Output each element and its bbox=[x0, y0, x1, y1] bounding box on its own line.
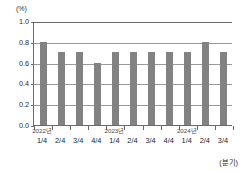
y-axis-tick-label: 0.4 bbox=[19, 81, 29, 88]
y-axis-tick-label: 0.2 bbox=[19, 102, 29, 109]
x-axis-category-labels: 1/42/43/44/41/42/43/44/41/42/43/4 bbox=[33, 137, 232, 147]
bar bbox=[202, 42, 209, 125]
x-axis-category-label: 1/4 bbox=[105, 137, 123, 145]
x-axis-category-label: 3/4 bbox=[69, 137, 87, 145]
bar-slot bbox=[179, 22, 197, 125]
x-axis-category-label: 2/4 bbox=[196, 137, 214, 145]
bar bbox=[94, 63, 101, 125]
year-label: 2022년 bbox=[32, 127, 52, 134]
bar-slot bbox=[161, 22, 179, 125]
bar bbox=[220, 52, 227, 125]
bar bbox=[58, 52, 65, 125]
x-axis-category-label: 1/4 bbox=[178, 137, 196, 145]
bar-slot bbox=[88, 22, 106, 125]
bar bbox=[184, 52, 191, 125]
bar-slot bbox=[124, 22, 142, 125]
bar-slot bbox=[143, 22, 161, 125]
y-axis-tick-label: 0.8 bbox=[19, 39, 29, 46]
x-axis-category-label: 2/4 bbox=[51, 137, 69, 145]
bar bbox=[40, 42, 47, 125]
year-label: 2023년 bbox=[105, 127, 125, 134]
bar-slot bbox=[215, 22, 233, 125]
x-axis-category-label: 1/4 bbox=[33, 137, 51, 145]
bar-slot bbox=[52, 22, 70, 125]
bars-group bbox=[34, 22, 232, 125]
y-axis-tick-label: 1.0 bbox=[19, 18, 29, 25]
bar-slot bbox=[34, 22, 52, 125]
bar bbox=[130, 52, 137, 125]
plot-baseline bbox=[34, 125, 232, 126]
bar bbox=[76, 52, 83, 125]
quarterly-bar-chart: (%) 1.00.80.60.40.20.0 2022년2023년2024년 1… bbox=[0, 0, 243, 171]
x-axis-tick bbox=[233, 126, 234, 130]
x-axis-category-label: 3/4 bbox=[142, 137, 160, 145]
bar-slot bbox=[70, 22, 88, 125]
year-label: 2024년 bbox=[177, 127, 197, 134]
x-axis-category-label: 4/4 bbox=[160, 137, 178, 145]
bar-slot bbox=[106, 22, 124, 125]
x-axis-category-label: 3/4 bbox=[214, 137, 232, 145]
y-axis-tick-label: 0.0 bbox=[19, 122, 29, 129]
bar bbox=[166, 52, 173, 125]
plot-area: 1.00.80.60.40.20.0 bbox=[33, 22, 232, 126]
x-axis-unit-label: (분기) bbox=[219, 157, 238, 167]
x-axis-category-label: 4/4 bbox=[87, 137, 105, 145]
y-axis-unit-label: (%) bbox=[16, 5, 27, 12]
bar bbox=[148, 52, 155, 125]
x-axis-category-label: 2/4 bbox=[123, 137, 141, 145]
y-axis-tick-label: 0.6 bbox=[19, 60, 29, 67]
bar bbox=[112, 52, 119, 125]
bar-slot bbox=[197, 22, 215, 125]
